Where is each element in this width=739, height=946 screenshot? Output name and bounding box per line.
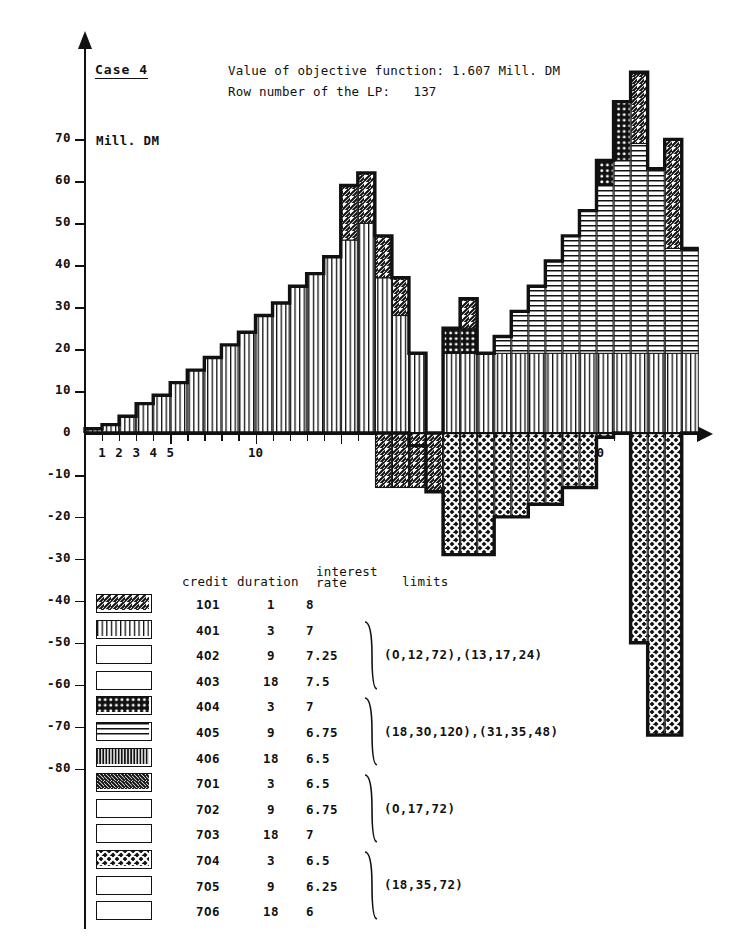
bar-segment-vertical xyxy=(341,240,357,433)
bar-segment-diagonal-up xyxy=(375,433,391,488)
legend-credit: 4O4 xyxy=(182,699,234,714)
bar-segment-vertical xyxy=(580,353,596,433)
legend-duration: 9 xyxy=(244,879,298,894)
bar-segment-vertical xyxy=(495,353,511,433)
legend-brace xyxy=(364,773,378,844)
bar-segment-horizontal xyxy=(563,236,579,353)
bar-segment-crosshatch-dark xyxy=(546,433,562,504)
bar-segment-dotted-dark xyxy=(614,102,630,161)
legend-interest-rate: 6.75 xyxy=(306,802,358,817)
bar-segment-crosshatch-dark xyxy=(478,433,494,555)
legend-credit: 4O1 xyxy=(182,623,234,638)
bar-segment-vertical xyxy=(478,353,494,433)
bar-segment-vertical xyxy=(205,357,221,433)
bar-segment-horizontal xyxy=(529,286,545,353)
bar-segment-diagonal-up xyxy=(427,433,443,492)
legend-interest-rate: 7 xyxy=(306,623,358,638)
bar-segment-horizontal xyxy=(597,185,613,353)
legend-header-interest-rate: interest rate xyxy=(316,566,378,588)
bar-segment-vertical xyxy=(512,353,528,433)
bar-segment-vertical xyxy=(393,316,409,433)
bar-segment-vertical xyxy=(307,274,323,433)
legend-swatch-empty xyxy=(96,671,152,690)
bar-segment-diagonal-up xyxy=(393,433,409,488)
bar-segment-crosshatch-dark xyxy=(580,433,596,488)
legend-credit: 4O5 xyxy=(182,725,234,740)
legend-credit: 7O6 xyxy=(182,904,234,919)
legend-swatch-empty xyxy=(96,645,152,664)
bar-segment-crosshatch-dark xyxy=(529,433,545,504)
bar-segment-vertical xyxy=(324,257,340,433)
bar-segment-dotted-dark xyxy=(597,160,613,185)
legend-duration: 3 xyxy=(244,623,298,638)
bar-segment-vertical xyxy=(631,353,647,433)
bar-segment-crosshatch-dark xyxy=(665,433,681,735)
legend-limit-text: (O,12,72),(13,17,24) xyxy=(384,647,543,662)
bar-segment-vertical xyxy=(444,353,460,433)
legend-swatch-horizontal xyxy=(96,722,152,741)
legend-credit: 1O1 xyxy=(182,597,234,612)
bar-segment-crosshatch-dark xyxy=(648,433,664,735)
bar-segment-vertical xyxy=(188,370,204,433)
bar-segment-vertical xyxy=(154,395,170,433)
legend-interest-rate: 6.5 xyxy=(306,853,358,868)
legend-duration: 3 xyxy=(244,776,298,791)
legend-swatch-dotted-dark xyxy=(96,696,152,715)
bar-segment-diagonal-up xyxy=(393,278,409,316)
bar-segment-vertical xyxy=(137,404,153,433)
legend-credit: 7O2 xyxy=(182,802,234,817)
bar-segment-horizontal xyxy=(631,144,647,354)
bar-segment-crosshatch-dark xyxy=(631,433,647,643)
bar-segment-vertical xyxy=(546,353,562,433)
bar-segment-crosshatch-dark xyxy=(495,433,511,517)
bar-segment-vertical xyxy=(597,353,613,433)
bar-segment-horizontal xyxy=(546,261,562,353)
bar-segment-diagonal-up xyxy=(631,72,647,143)
legend-swatch-empty xyxy=(96,799,152,818)
legend-header-limits: limits xyxy=(402,574,448,589)
bar-segment-vertical xyxy=(529,353,545,433)
bar-segment-vertical xyxy=(648,353,664,433)
bar-segment-horizontal xyxy=(512,311,528,353)
legend-limit-text: (18,35,72) xyxy=(384,877,463,892)
bar-segment-vertical xyxy=(120,416,136,433)
legend-swatch-empty xyxy=(96,901,152,920)
legend-interest-rate: 6.5 xyxy=(306,776,358,791)
legend-duration: 18 xyxy=(244,751,298,766)
bar-segment-horizontal xyxy=(682,248,698,353)
legend-limit-text: (18,3O,12O),(31,35,48) xyxy=(384,724,558,739)
bar-segment-vertical xyxy=(222,345,238,433)
legend-swatch-vertical xyxy=(96,620,152,639)
legend-credit: 7O4 xyxy=(182,853,234,868)
bar-segment-diagonal-up xyxy=(461,299,477,328)
bar-segment-vertical xyxy=(358,223,374,433)
legend-credit: 7O3 xyxy=(182,827,234,842)
legend-duration: 3 xyxy=(244,853,298,868)
legend-swatch-empty xyxy=(96,876,152,895)
bar-segment-horizontal xyxy=(580,211,596,354)
legend-swatch-vertical-dark xyxy=(96,748,152,767)
bar-segment-diagonal-up xyxy=(665,139,681,248)
bar-segment-dotted-dark xyxy=(444,328,460,353)
bar-segment-vertical xyxy=(171,383,187,433)
legend-duration: 18 xyxy=(244,904,298,919)
legend-duration: 1 xyxy=(244,597,298,612)
bar-segment-vertical xyxy=(273,303,289,433)
legend-limit-text: (O,17,72) xyxy=(384,801,455,816)
bar-segment-diagonal-up xyxy=(341,185,357,240)
legend-swatch-diagonal-up xyxy=(96,594,152,613)
bar-segment-horizontal xyxy=(614,160,630,353)
bar-segment-horizontal xyxy=(648,169,664,354)
bar-segment-crosshatch-dark xyxy=(563,433,579,488)
legend-interest-rate: 7 xyxy=(306,827,358,842)
legend-duration: 3 xyxy=(244,699,298,714)
legend-credit: 4O2 xyxy=(182,648,234,663)
legend-credit: 4O6 xyxy=(182,751,234,766)
legend-brace xyxy=(364,620,378,691)
bar-segment-vertical xyxy=(665,353,681,433)
bar-segment-diagonal-up xyxy=(410,433,426,488)
legend-interest-rate: 6.5 xyxy=(306,751,358,766)
legend-interest-rate: 6 xyxy=(306,904,358,919)
bar-segment-diagonal-up xyxy=(358,173,374,223)
x-axis-overlay xyxy=(85,432,701,434)
